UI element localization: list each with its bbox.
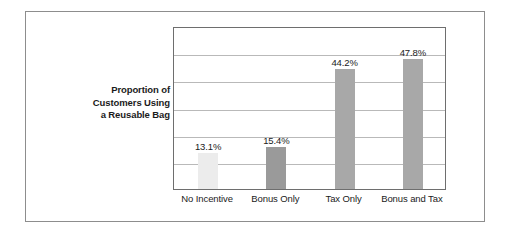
bar	[198, 153, 218, 189]
plot-area: 13.1%15.4%44.2%47.8%	[173, 27, 446, 190]
bar	[266, 147, 286, 189]
x-axis-tick-label: Bonus and Tax	[367, 193, 457, 204]
y-axis-label-line-2: Customers Using	[40, 97, 170, 110]
y-axis-label-line-3: a Reusable Bag	[40, 109, 170, 122]
bar-value-label: 15.4%	[246, 135, 306, 146]
bar	[403, 59, 423, 189]
bar-value-label: 13.1%	[178, 141, 238, 152]
y-axis-label-line-1: Proportion of	[40, 84, 170, 97]
bar-value-label: 47.8%	[383, 47, 443, 58]
bar-series: 13.1%15.4%44.2%47.8%	[174, 28, 445, 189]
bar	[335, 69, 355, 189]
y-axis-label: Proportion of Customers Using a Reusable…	[40, 84, 170, 122]
x-axis-tick-labels: No IncentiveBonus OnlyTax OnlyBonus and …	[173, 193, 446, 207]
chart-figure: Proportion of Customers Using a Reusable…	[0, 0, 510, 234]
bar-value-label: 44.2%	[315, 57, 375, 68]
